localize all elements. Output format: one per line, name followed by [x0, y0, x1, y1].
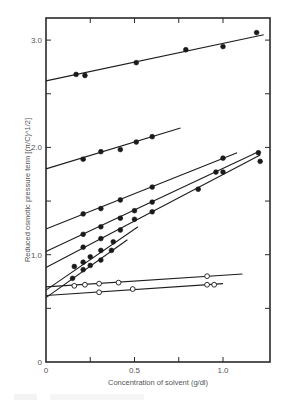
series-7-point — [98, 258, 103, 263]
tick-labels: 00.51.001.02.03.0 — [31, 36, 229, 375]
x-tick-label: 0.5 — [129, 366, 141, 375]
series-4-point — [98, 224, 103, 229]
series-7-point — [81, 267, 86, 272]
series-1-point — [183, 47, 188, 52]
series-5-point — [150, 209, 155, 214]
series-2-point — [81, 157, 86, 162]
series-9-point — [97, 290, 102, 295]
series-5-point — [196, 187, 201, 192]
series-8-point — [205, 274, 210, 279]
series-4-point — [81, 232, 86, 237]
series-5-point — [81, 245, 86, 250]
series-6-point — [88, 254, 93, 259]
series-7-fit-line — [46, 240, 127, 298]
series-4-point — [214, 170, 219, 175]
x-tick-label: 0 — [44, 366, 49, 375]
series-5-point — [258, 159, 263, 164]
plot-frame — [46, 18, 270, 362]
series-2-point — [150, 134, 155, 139]
series-4-point — [132, 208, 137, 213]
series-4-point — [150, 200, 155, 205]
series-4-point — [221, 170, 226, 175]
figure-caption-faint — [14, 394, 144, 400]
series-5-point — [132, 217, 137, 222]
series-3-point — [118, 198, 123, 203]
series-2-fit-line — [46, 128, 181, 169]
series-2-point — [98, 149, 103, 154]
series-4-point — [118, 216, 123, 221]
series-6-point — [111, 239, 116, 244]
series-9-point — [130, 287, 135, 292]
series-8-point — [116, 280, 121, 285]
series-7-point — [70, 276, 75, 281]
series-3-point — [98, 206, 103, 211]
series-7-point — [88, 263, 93, 268]
osmotic-pressure-chart: 00.51.001.02.03.0 Concentration of solve… — [0, 0, 285, 404]
series-1-point — [221, 44, 226, 49]
series-6-point — [98, 248, 103, 253]
x-tick-label: 1.0 — [217, 366, 229, 375]
series-3-point — [150, 185, 155, 190]
x-axis-label: Concentration of solvent (g/dl) — [108, 378, 209, 387]
y-axis-label: Reduced osmotic pressure term [(π/C)^1/2… — [23, 118, 32, 262]
y-tick-label: 1.0 — [31, 251, 43, 260]
series-8-point — [97, 281, 102, 286]
series-3-point — [221, 156, 226, 161]
series-1-point — [254, 30, 259, 35]
series-2-point — [118, 147, 123, 152]
series-9-point — [212, 282, 217, 287]
series-5-point — [118, 228, 123, 233]
series-5-point — [98, 236, 103, 241]
series-4-point — [256, 150, 261, 155]
series-6-point — [72, 264, 77, 269]
series-8-point — [72, 283, 77, 288]
series-8-point — [83, 282, 88, 287]
plot-border — [46, 18, 270, 362]
series-7-point — [109, 248, 114, 253]
series-3-point — [81, 212, 86, 217]
series-1-point — [134, 60, 139, 65]
axis-ticks — [46, 18, 270, 362]
series-2-point — [134, 140, 139, 145]
y-tick-label: 0 — [38, 358, 43, 367]
series-1-point — [74, 72, 79, 77]
series-6-point — [81, 260, 86, 265]
y-tick-label: 3.0 — [31, 36, 43, 45]
series-1-point — [83, 73, 88, 78]
y-tick-label: 2.0 — [31, 143, 43, 152]
series-9-point — [205, 282, 210, 287]
